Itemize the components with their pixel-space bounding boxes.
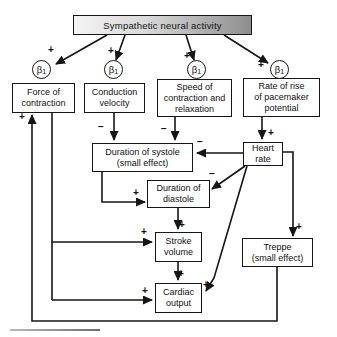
edge-line-heart-to-treppe [283, 152, 293, 236]
sign-treppe-force: + [17, 112, 27, 122]
sign-force-stroke: + [139, 227, 149, 237]
force-of-contraction-box: Force of contraction [12, 83, 75, 113]
sign-force-cardiac: + [140, 286, 150, 296]
beta-subscript: 1 [114, 68, 118, 75]
sign-rate-heart: + [266, 128, 276, 138]
sign-sna-beta1-conduction: + [106, 46, 116, 56]
partial-horizontal-rule [10, 329, 100, 331]
edge-line-heart-to-cardiac [206, 166, 247, 291]
sign-heart-systole: − [195, 137, 205, 147]
heart-rate-box: Heart rate [243, 142, 283, 166]
beta1-receptor-speed: β1 [187, 60, 206, 79]
edge-line-sna-to-beta1-conduction [116, 35, 125, 60]
conduction-velocity-box: Conduction velocity [84, 83, 145, 113]
beta-subscript: 1 [197, 68, 201, 75]
sign-heart-diastole: − [207, 169, 217, 179]
speed-of-contraction-and-relaxation-box: Speed of contraction and relaxation [157, 79, 232, 117]
flowchart-sympathetic-cardiac-effects: Sympathetic neural activity Force of con… [0, 0, 337, 337]
sign-speed-systole: − [159, 124, 169, 134]
sign-systole-diastole: + [131, 188, 141, 198]
beta1-receptor-force: β1 [32, 60, 51, 79]
sympathetic-neural-activity-box: Sympathetic neural activity [73, 15, 252, 35]
duration-of-systole-box: Duration of systole (small effect) [92, 143, 193, 172]
beta-subscript: 1 [280, 68, 284, 75]
sign-heart-treppe: + [294, 222, 304, 232]
edge-line-sna-to-beta1-force [56, 35, 107, 64]
sign-conduction-systole: − [96, 122, 106, 132]
sign-heart-cardiac: + [201, 280, 211, 290]
stroke-volume-box: Stroke volume [155, 232, 202, 262]
beta1-receptor-rate: β1 [270, 60, 289, 79]
sign-stroke-cardiac: + [176, 269, 186, 279]
duration-of-diastole-box: Duration of diastole [147, 180, 210, 208]
sign-sna-beta1-speed: + [182, 51, 192, 61]
sign-sna-beta1-rate: + [256, 60, 266, 70]
beta-subscript: 1 [42, 68, 46, 75]
cardiac-output-box: Cardiac output [155, 283, 202, 313]
rate-of-rise-of-pacemaker-potential-box: Rate of rise of pacemaker potential [243, 78, 320, 117]
sign-diastole-stroke: + [177, 220, 187, 230]
beta1-receptor-conduction: β1 [104, 60, 123, 79]
treppe-box: Treppe (small effect) [242, 238, 313, 267]
sign-sna-beta1-force: + [46, 45, 56, 55]
